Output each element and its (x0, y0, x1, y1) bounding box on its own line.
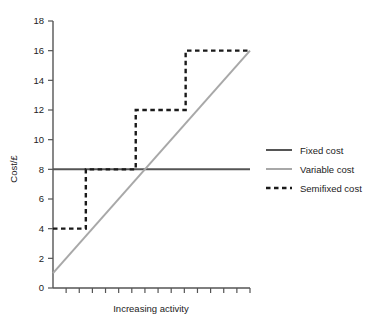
legend-label-semifixed-cost: Semifixed cost (300, 183, 362, 194)
y-tick-label: 0 (39, 282, 44, 293)
y-tick-label: 18 (33, 15, 44, 26)
y-tick-label: 16 (33, 45, 44, 56)
y-axis-title: Cost/£ (8, 155, 19, 183)
y-tick-label: 8 (39, 164, 44, 175)
chart-background (0, 0, 372, 323)
y-tick-label: 6 (39, 193, 44, 204)
legend-label-variable-cost: Variable cost (300, 164, 355, 175)
x-axis-title: Increasing activity (113, 303, 189, 314)
y-tick-label: 12 (33, 104, 44, 115)
y-tick-label: 2 (39, 253, 44, 264)
chart-figure: 024681012141618 Cost/£ Increasing activi… (0, 0, 372, 323)
legend-label-fixed-cost: Fixed cost (300, 145, 344, 156)
y-tick-label: 10 (33, 134, 44, 145)
y-tick-label: 14 (33, 75, 44, 86)
y-tick-label: 4 (39, 223, 44, 234)
cost-behaviour-chart: 024681012141618 Cost/£ Increasing activi… (0, 0, 372, 323)
